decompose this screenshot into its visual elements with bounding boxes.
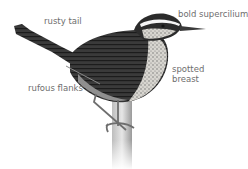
label-spotted-breast-line1: spotted <box>172 64 212 74</box>
label-rufous-flanks: rufous flanks <box>28 83 83 93</box>
label-bold-supercilium: bold supercilium <box>178 9 248 19</box>
bird-eye <box>161 24 164 27</box>
label-spotted-breast: spotted breast <box>172 64 212 84</box>
bird-cheek <box>142 29 176 39</box>
bird-beak <box>180 26 206 31</box>
perch-post <box>108 100 136 169</box>
label-spotted-breast-line2: breast <box>172 74 212 84</box>
label-rusty-tail: rusty tail <box>44 16 82 26</box>
